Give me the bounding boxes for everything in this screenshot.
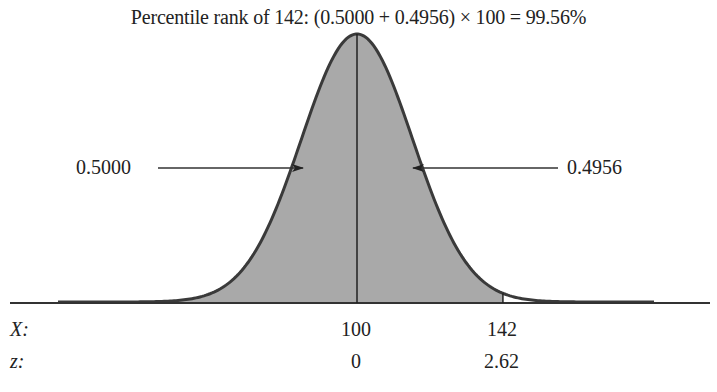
left-area-label: 0.5000 — [76, 156, 131, 179]
x-value-tick: 142 — [487, 318, 517, 341]
right-area-label: 0.4956 — [567, 156, 622, 179]
chart-title: Percentile rank of 142: (0.5000 + 0.4956… — [0, 6, 717, 29]
x-row-label: X: — [10, 318, 29, 341]
x-mean-tick: 100 — [341, 318, 371, 341]
z-mean-tick: 0 — [351, 350, 361, 373]
z-value-tick: 2.62 — [484, 350, 519, 373]
z-row-label: z: — [10, 350, 24, 373]
